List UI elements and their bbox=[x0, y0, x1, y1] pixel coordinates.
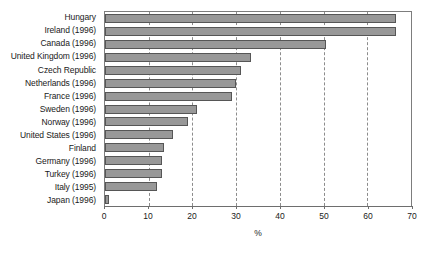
category-label: Czech Republic bbox=[0, 63, 100, 76]
bar bbox=[105, 53, 251, 62]
category-label: Hungary bbox=[0, 11, 100, 24]
x-tick bbox=[368, 206, 369, 209]
x-tick-label: 50 bbox=[319, 211, 328, 221]
x-tick bbox=[236, 206, 237, 209]
bar-row bbox=[105, 167, 411, 180]
bar-row bbox=[105, 77, 411, 90]
x-tick-label: 70 bbox=[407, 211, 416, 221]
bar bbox=[105, 14, 396, 23]
category-label: Sweden (1996) bbox=[0, 102, 100, 115]
bar-row bbox=[105, 128, 411, 141]
bar-chart: HungaryIreland (1996)Canada (1996)United… bbox=[0, 0, 427, 256]
bar bbox=[105, 182, 157, 191]
x-tick-label: 60 bbox=[363, 211, 372, 221]
bar bbox=[105, 143, 164, 152]
bar-series bbox=[105, 12, 411, 206]
x-tick-label: 20 bbox=[187, 211, 196, 221]
bar bbox=[105, 27, 396, 36]
category-label: Netherlands (1996) bbox=[0, 76, 100, 89]
x-axis-title: % bbox=[104, 228, 412, 238]
bar-row bbox=[105, 51, 411, 64]
category-label: Finland bbox=[0, 142, 100, 155]
x-tick bbox=[104, 206, 105, 209]
x-tick-label: 10 bbox=[143, 211, 152, 221]
category-label: Turkey (1996) bbox=[0, 168, 100, 181]
x-tick-label: 0 bbox=[102, 211, 107, 221]
bar bbox=[105, 66, 241, 75]
bar-row bbox=[105, 193, 411, 206]
bar-row bbox=[105, 38, 411, 51]
category-label: Canada (1996) bbox=[0, 37, 100, 50]
bar-row bbox=[105, 64, 411, 77]
bar bbox=[105, 195, 109, 204]
bar-row bbox=[105, 25, 411, 38]
x-tick-label: 40 bbox=[275, 211, 284, 221]
bar bbox=[105, 156, 162, 165]
bar bbox=[105, 130, 173, 139]
bar bbox=[105, 92, 232, 101]
x-tick bbox=[148, 206, 149, 209]
x-tick bbox=[412, 206, 413, 209]
category-label: France (1996) bbox=[0, 89, 100, 102]
bar-row bbox=[105, 12, 411, 25]
bar bbox=[105, 117, 188, 126]
category-label: Norway (1996) bbox=[0, 116, 100, 129]
category-label: Japan (1996) bbox=[0, 194, 100, 207]
bar-row bbox=[105, 116, 411, 129]
category-label: United Kingdom (1996) bbox=[0, 50, 100, 63]
bar bbox=[105, 79, 236, 88]
bar-row bbox=[105, 180, 411, 193]
category-label: Germany (1996) bbox=[0, 155, 100, 168]
category-axis: HungaryIreland (1996)Canada (1996)United… bbox=[0, 11, 100, 207]
x-axis: 010203040506070 bbox=[104, 206, 412, 207]
category-label: Ireland (1996) bbox=[0, 24, 100, 37]
bar-row bbox=[105, 141, 411, 154]
category-label: United States (1996) bbox=[0, 129, 100, 142]
bar bbox=[105, 105, 197, 114]
category-label: Italy (1995) bbox=[0, 181, 100, 194]
bar bbox=[105, 40, 326, 49]
bar-row bbox=[105, 103, 411, 116]
x-tick bbox=[192, 206, 193, 209]
x-tick bbox=[324, 206, 325, 209]
bar-row bbox=[105, 154, 411, 167]
bar bbox=[105, 169, 162, 178]
x-tick-label: 30 bbox=[231, 211, 240, 221]
x-tick bbox=[280, 206, 281, 209]
bar-row bbox=[105, 90, 411, 103]
plot-area bbox=[104, 11, 412, 207]
